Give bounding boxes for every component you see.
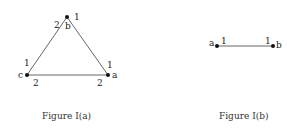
vertex-b-dot: [271, 44, 275, 48]
vertex-b-label: b: [65, 21, 71, 31]
vertex-a-dot: [106, 73, 110, 77]
vertex-a-label: a: [209, 38, 215, 48]
edge-label-a-right: 1: [221, 36, 227, 46]
vertex-b-dot: [65, 15, 69, 19]
edge-label-a-up: 1: [107, 60, 113, 70]
edge-label-c-right: 2: [33, 78, 39, 88]
figure-b-edge: a b 1 1 Figure I(b): [209, 36, 282, 121]
edge-b-a: [67, 17, 108, 75]
edge-label-b-top: 1: [74, 12, 80, 22]
figure-a-caption: Figure I(a): [42, 111, 91, 121]
edge-label-b-left: 2: [54, 20, 60, 30]
edge-label-b-left: 1: [265, 36, 271, 46]
edge-label-c-up: 1: [24, 58, 30, 68]
figure-a-triangle: b c a 1 2 1 2 1 2 Figure I(a): [18, 12, 118, 121]
edge-b-c: [27, 17, 67, 75]
figure-b-caption: Figure I(b): [219, 111, 269, 121]
vertex-b-label: b: [276, 40, 282, 50]
vertex-c-label: c: [18, 70, 23, 80]
vertex-a-label: a: [112, 70, 118, 80]
vertex-a-dot: [215, 44, 219, 48]
diagram-canvas: b c a 1 2 1 2 1 2 Figure I(a) a b 1 1 Fi…: [0, 0, 287, 130]
vertex-c-dot: [25, 73, 29, 77]
edge-label-a-left: 2: [97, 78, 103, 88]
